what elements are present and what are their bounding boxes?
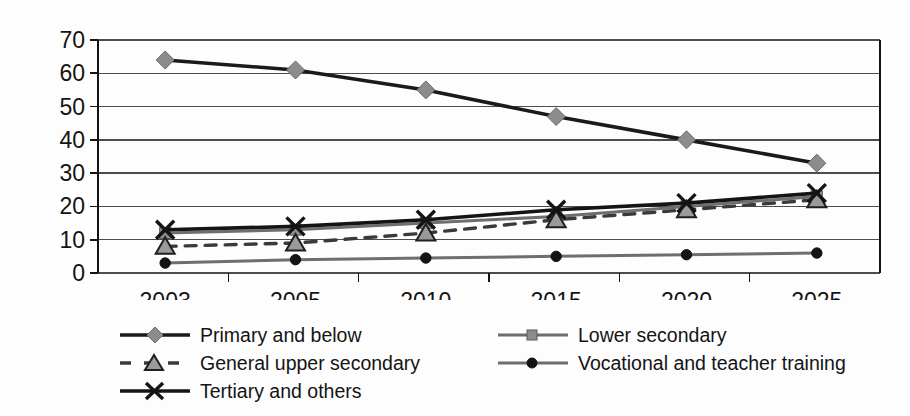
x-axis-tick-label: 2005: [270, 288, 321, 300]
legend-item-label: Primary and below: [200, 322, 361, 348]
x-axis-tick-label: 2015: [531, 288, 582, 300]
x-axis-tick-label: 2003: [140, 288, 191, 300]
line-square-key: [496, 322, 570, 348]
legend-item: Vocational and teacher training: [496, 350, 906, 376]
legend-item: Primary and below: [118, 322, 488, 348]
y-axis-tick-label: 40: [59, 127, 85, 153]
series-line: [165, 193, 817, 230]
data-point-marker-circle: [681, 249, 691, 259]
legend-item-label: Tertiary and others: [200, 378, 362, 404]
legend-item-label: Lower secondary: [578, 322, 727, 348]
dashed-triangle-key: [118, 350, 192, 376]
series-primary-and-below: [156, 51, 826, 172]
line-circle-key: [496, 350, 570, 376]
data-point-marker-circle: [551, 251, 561, 261]
data-point-marker-circle: [290, 254, 300, 264]
legend-item: Lower secondary: [496, 322, 906, 348]
data-point-marker-diamond: [547, 108, 565, 126]
legend-item-label: General upper secondary: [200, 350, 420, 376]
plot-area: 010203040506070200320052010201520202025: [0, 0, 910, 300]
data-point-marker-diamond: [417, 81, 435, 99]
x-axis-tick-label: 2025: [791, 288, 842, 300]
line-diamond-key: [118, 322, 192, 348]
data-point-marker-circle: [160, 258, 170, 268]
chart-legend: Primary and below General upper secondar…: [118, 322, 908, 414]
x-axis-tick-label: 2010: [400, 288, 451, 300]
legend-column-right: Lower secondary Vocational and teacher t…: [496, 322, 906, 378]
y-axis-tick-label: 20: [59, 193, 85, 219]
y-axis-tick-label: 30: [59, 160, 85, 186]
line-chart-svg: 010203040506070200320052010201520202025: [0, 0, 910, 300]
data-point-marker-circle: [421, 253, 431, 263]
data-point-marker-diamond: [156, 51, 174, 69]
y-axis-tick-label: 50: [59, 94, 85, 120]
data-point-marker-diamond: [808, 154, 826, 172]
series-vocational-and-teacher-training: [160, 248, 822, 268]
data-point-marker-circle: [812, 248, 822, 258]
series-line: [165, 253, 817, 263]
series-line: [165, 60, 817, 163]
legend-item-label: Vocational and teacher training: [578, 350, 846, 376]
y-axis-tick-label: 10: [59, 227, 85, 253]
line-cross-key: [118, 378, 192, 404]
y-axis-tick-label: 60: [59, 60, 85, 86]
chart-figure: 010203040506070200320052010201520202025 …: [0, 0, 910, 416]
data-point-marker-diamond: [678, 131, 696, 149]
y-axis-tick-label: 0: [72, 260, 85, 286]
y-axis-tick-label: 70: [59, 27, 85, 53]
legend-item: General upper secondary: [118, 350, 488, 376]
legend-item: Tertiary and others: [118, 378, 488, 404]
data-point-marker-diamond: [287, 61, 305, 79]
x-axis-tick-label: 2020: [661, 288, 712, 300]
legend-column-left: Primary and below General upper secondar…: [118, 322, 488, 406]
